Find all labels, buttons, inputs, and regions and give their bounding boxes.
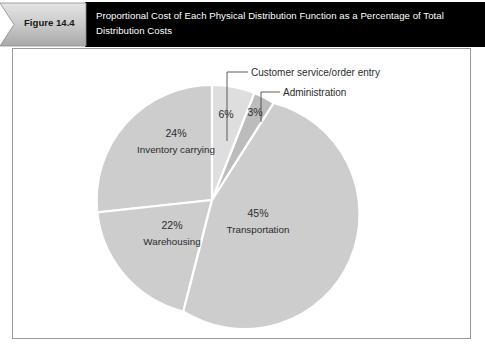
slice-pct-customer-service: 6% (218, 108, 233, 120)
figure-tag-label: Figure 14.4 (24, 17, 86, 28)
pie-callout-labels: Customer service/order entry Administrat… (251, 67, 380, 98)
slice-pct-inventory-carrying: 24% (165, 127, 186, 139)
slice-pct-transportation: 45% (247, 207, 268, 219)
slice-pct-warehousing: 22% (161, 219, 182, 231)
figure-title: Proportional Cost of Each Physical Distr… (96, 9, 468, 38)
slice-pct-administration: 3% (247, 106, 262, 118)
slice-name-warehousing: Warehousing (143, 236, 200, 247)
figure-container: Figure 14.4 Proportional Cost of Each Ph… (0, 0, 485, 351)
callout-label-administration: Administration (283, 87, 346, 98)
pie-chart: 24% Inventory carrying 22% Warehousing 4… (12, 48, 471, 339)
callout-label-customer-service: Customer service/order entry (251, 67, 380, 78)
figure-header: Figure 14.4 Proportional Cost of Each Ph… (0, 2, 485, 47)
pie-slices (97, 85, 360, 329)
slice-name-transportation: Transportation (227, 224, 290, 235)
slice-name-inventory-carrying: Inventory carrying (137, 144, 215, 155)
pie-chart-svg: 24% Inventory carrying 22% Warehousing 4… (12, 48, 471, 339)
